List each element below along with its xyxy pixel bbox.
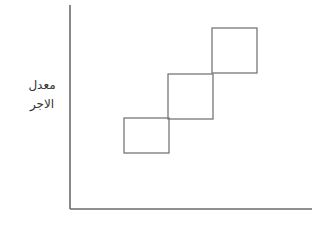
box-step-2 — [168, 74, 213, 119]
wage-rate-diagram: معدل الاجر — [0, 0, 329, 226]
y-axis-label-line-2: الاجر — [22, 95, 62, 114]
box-step-1 — [124, 118, 169, 153]
y-axis-label: معدل الاجر — [22, 76, 62, 114]
box-step-3 — [212, 28, 257, 73]
y-axis-label-line-1: معدل — [22, 76, 62, 95]
